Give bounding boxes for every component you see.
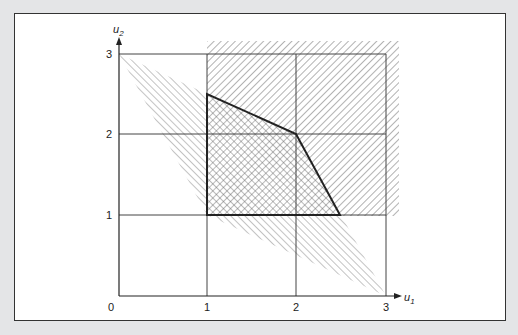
y-tick-1: 1 — [106, 209, 112, 221]
y-axis-label: u2 — [113, 23, 124, 38]
x-axis-arrow-icon — [394, 293, 402, 299]
x-axis-label: u1 — [404, 291, 415, 306]
y-tick-2: 2 — [106, 128, 112, 140]
diagram-canvas: u1 u2 0 1 2 3 1 2 3 — [0, 0, 518, 335]
x-tick-1: 1 — [204, 301, 210, 313]
x-tick-3: 3 — [383, 301, 389, 313]
x-tick-0: 0 — [108, 301, 114, 313]
y-axis-arrow-icon — [116, 37, 122, 45]
y-tick-3: 3 — [106, 48, 112, 60]
x-tick-2: 2 — [293, 301, 299, 313]
